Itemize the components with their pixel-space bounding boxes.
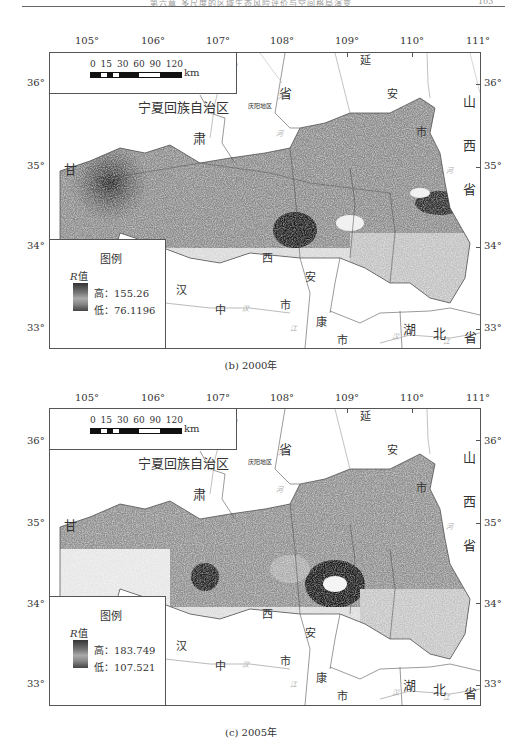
lon-label: 110° — [400, 392, 424, 403]
tick — [476, 440, 480, 441]
lat-label: 35° — [27, 160, 45, 171]
label-ningxia: 宁夏回族自治区 — [138, 97, 229, 116]
label-kang: 康 — [316, 669, 327, 685]
legend-title: 图例 — [100, 250, 122, 266]
label-hu: 湖 — [403, 675, 416, 694]
label-shan: 山 — [463, 447, 476, 466]
label-xi1: 西 — [463, 135, 476, 154]
tick — [476, 523, 480, 524]
lon-label: 108° — [270, 35, 294, 46]
river-label: 河 — [278, 447, 285, 457]
legend-low: 低：107.521 — [94, 659, 155, 674]
lat-label: 34° — [27, 598, 45, 609]
figure-caption: (b) 2000年 — [225, 357, 278, 372]
map-frame: 0 15 30 60 90 120 km 宁夏回族自治区 庆阳地区 甘 肃 省 … — [49, 408, 481, 706]
map-panel-2000: 105° 106° 107° 108° 109° 110° 111° 36° 3… — [0, 0, 523, 380]
lat-label: 33° — [484, 678, 502, 689]
lon-label: 106° — [141, 392, 165, 403]
lat-label: 35° — [27, 517, 45, 528]
scale-ticks: 0 15 30 60 90 120 — [90, 59, 183, 69]
tick — [412, 53, 413, 57]
legend-color-ramp — [73, 640, 88, 668]
label-su: 肃 — [193, 128, 206, 147]
river-label: 汉 — [242, 659, 249, 669]
label-shi3: 市 — [280, 652, 291, 668]
river-label: 汉 — [392, 331, 399, 341]
river-label: 汉 — [242, 303, 249, 313]
label-hu: 湖 — [403, 319, 416, 338]
tick — [476, 84, 480, 85]
label-sheng2: 省 — [463, 535, 476, 554]
map-panel-2005: 105° 106° 107° 108° 109° 110° 111° 36° 3… — [0, 380, 523, 754]
label-su: 肃 — [193, 484, 206, 503]
label-shi4: 市 — [337, 331, 348, 347]
legend-high: 高：183.749 — [94, 642, 155, 657]
label-shi4: 市 — [337, 687, 348, 703]
label-shi1: 市 — [416, 123, 427, 139]
label-an2: 安 — [305, 624, 316, 640]
label-shan: 山 — [463, 91, 476, 110]
tick — [412, 409, 413, 413]
lat-label: 34° — [484, 240, 502, 251]
legend-low: 低：76.1196 — [94, 302, 155, 317]
label-han: 汉 — [176, 637, 187, 653]
lat-label: 35° — [484, 160, 502, 171]
legend: 图例 R值 高：183.749 低：107.521 — [50, 596, 166, 705]
river-label: 河 — [276, 128, 283, 138]
river-label: 江 — [290, 679, 297, 689]
label-yan: 延 — [360, 408, 371, 423]
label-qingyang: 庆阳地区 — [248, 101, 272, 110]
river-label: 河 — [276, 484, 283, 494]
label-gan: 甘 — [64, 515, 77, 534]
legend-field: R值 — [70, 625, 88, 640]
lon-label: 110° — [400, 35, 424, 46]
label-an1: 安 — [387, 85, 398, 101]
legend-color-ramp — [73, 283, 88, 311]
label-zhong: 中 — [215, 657, 226, 673]
lon-label: 108° — [270, 392, 294, 403]
lon-label: 107° — [206, 392, 230, 403]
tick — [476, 167, 480, 168]
label-shi1: 市 — [416, 479, 427, 495]
legend-field: R值 — [70, 268, 88, 283]
lon-label: 111° — [466, 392, 490, 403]
lon-label: 111° — [466, 35, 490, 46]
label-an2: 安 — [305, 268, 316, 284]
scale-bar-box: 0 15 30 60 90 120 km — [50, 409, 237, 450]
lat-label: 33° — [27, 322, 45, 333]
label-xi2: 西 — [262, 249, 273, 265]
river-label: 河 — [446, 165, 453, 175]
label-yan: 延 — [360, 52, 371, 67]
lon-label: 107° — [206, 35, 230, 46]
map-frame: 0 15 30 60 90 120 km 宁夏回族自治区 庆阳地区 甘 肃 省 … — [49, 52, 481, 349]
scale-unit: km — [184, 67, 200, 78]
label-sheng3: 省 — [464, 683, 477, 702]
tick — [347, 53, 348, 57]
scale-bar — [90, 72, 182, 78]
lat-label: 34° — [484, 598, 502, 609]
scale-bar-box: 0 15 30 60 90 120 km — [50, 53, 237, 94]
river-label: 江 — [290, 323, 297, 333]
legend-high: 高：155.26 — [94, 285, 149, 300]
river-label: 江 — [443, 692, 450, 702]
legend: 图例 R值 高：155.26 低：76.1196 — [50, 239, 166, 348]
label-han: 汉 — [176, 281, 187, 297]
lat-label: 35° — [484, 517, 502, 528]
river-label: 河 — [278, 91, 285, 101]
river-label: 江 — [443, 336, 450, 346]
scale-bar — [90, 428, 182, 434]
lat-label: 36° — [484, 435, 502, 446]
lat-label: 33° — [27, 678, 45, 689]
label-zhong: 中 — [215, 301, 226, 317]
label-gan: 甘 — [64, 159, 77, 178]
label-xi2: 西 — [262, 605, 273, 621]
tick — [347, 409, 348, 413]
lat-label: 36° — [27, 77, 45, 88]
label-sheng2: 省 — [463, 179, 476, 198]
lat-label: 36° — [484, 77, 502, 88]
tick — [476, 247, 480, 248]
river-label: 汉 — [392, 687, 399, 697]
lon-label: 109° — [335, 392, 359, 403]
river-label: 河 — [446, 521, 453, 531]
figure-caption: (c) 2005年 — [225, 724, 277, 739]
